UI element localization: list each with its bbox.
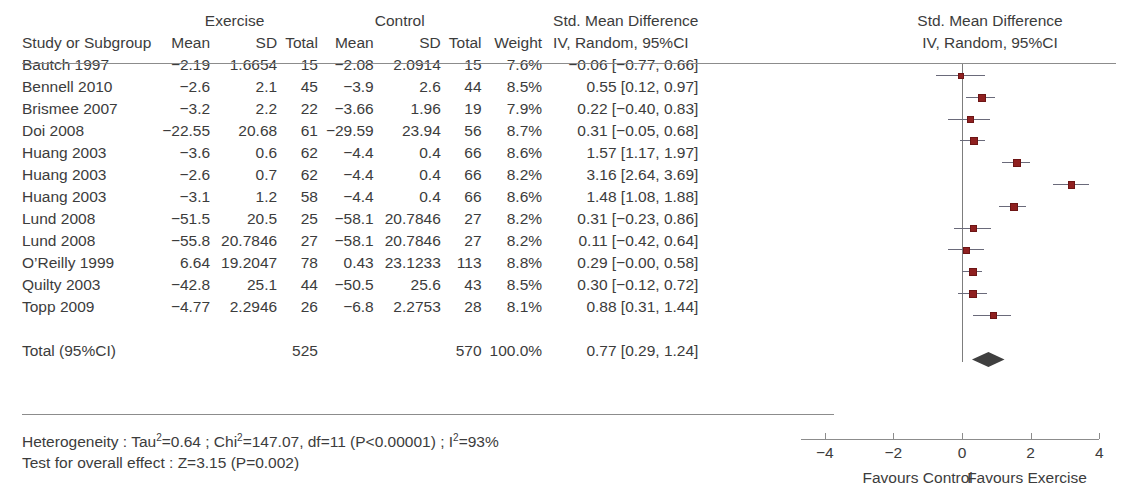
null-effect-line <box>962 64 963 362</box>
table-row: Brismee 2007−3.22.222−3.661.96197.9%0.22… <box>22 98 698 120</box>
cell-effect: 0.31 [−0.23, 0.86] <box>542 208 698 230</box>
overall-effect-line: Test for overall effect : Z=3.15 (P=0.00… <box>22 450 499 475</box>
cell-exercise-sd: 19.2047 <box>210 252 277 274</box>
cell-weight: 8.6% <box>482 142 543 164</box>
cell-exercise-total: 78 <box>277 252 318 274</box>
table-row: Huang 2003−3.60.662−4.40.4668.6%1.57 [1.… <box>22 142 698 164</box>
table-row: Doi 2008−22.5520.6861−29.5923.94568.7%0.… <box>22 120 698 142</box>
cell-exercise-sd: 1.2 <box>210 186 277 208</box>
cell-weight: 8.5% <box>482 274 543 296</box>
cell-control-total: 66 <box>441 186 482 208</box>
cell-effect: 0.30 [−0.12, 0.72] <box>542 274 698 296</box>
cell-weight: 7.9% <box>482 98 543 120</box>
cell-control-sd: 2.6 <box>374 76 441 98</box>
cell-exercise-mean: −42.8 <box>151 274 210 296</box>
cell-exercise-total: 62 <box>277 164 318 186</box>
cell-exercise-total: 45 <box>277 76 318 98</box>
cell-exercise-mean: −3.6 <box>151 142 210 164</box>
table-spacer-row <box>22 318 698 340</box>
axis-tick <box>893 433 894 439</box>
cell-control-total: 27 <box>441 230 482 252</box>
cell-control-mean: −58.1 <box>318 208 374 230</box>
cell-exercise-mean: −3.2 <box>151 98 210 120</box>
spacer-cell <box>277 318 318 340</box>
cell-effect: 0.29 [−0.00, 0.58] <box>542 252 698 274</box>
plot-area <box>848 64 1132 419</box>
cell-control-sd: 2.0914 <box>374 54 441 76</box>
table-row: Bautch 1997−2.191.665415−2.082.0914157.6… <box>22 54 698 76</box>
effect-estimate-marker <box>978 94 986 102</box>
favours-exercise-label: Favours Exercise <box>967 469 1087 487</box>
total-cell-exercise-sd <box>210 340 277 362</box>
cell-weight: 8.2% <box>482 208 543 230</box>
total-cell-control-sd <box>374 340 441 362</box>
cell-control-total: 15 <box>441 54 482 76</box>
spacer-cell <box>318 318 374 340</box>
cell-exercise-total: 62 <box>277 142 318 164</box>
cell-weight: 8.6% <box>482 186 543 208</box>
axis-tick <box>825 433 826 439</box>
table-row: O’Reilly 19996.6419.2047780.4323.1233113… <box>22 252 698 274</box>
column-header-exercise-total: Total <box>277 32 318 54</box>
column-header-control-sd: SD <box>374 32 441 54</box>
cell-exercise-mean: 6.64 <box>151 252 210 274</box>
effect-estimate-marker <box>1010 203 1018 211</box>
cell-exercise-mean: −3.1 <box>151 186 210 208</box>
cell-control-total: 28 <box>441 296 482 318</box>
cell-control-total: 113 <box>441 252 482 274</box>
cell-exercise-sd: 20.7846 <box>210 230 277 252</box>
forest-plot-figure: Exercise Control Std. Mean Difference St… <box>0 0 1132 501</box>
column-header-exercise-mean: Mean <box>151 32 210 54</box>
column-header-row: Study or Subgroup Mean SD Total Mean SD … <box>22 32 698 54</box>
cell-study: O’Reilly 1999 <box>22 252 151 274</box>
cell-effect: 1.48 [1.08, 1.88] <box>542 186 698 208</box>
spacer-cell <box>374 318 441 340</box>
cell-control-sd: 0.4 <box>374 164 441 186</box>
cell-exercise-total: 27 <box>277 230 318 252</box>
cell-study: Bautch 1997 <box>22 54 151 76</box>
cell-effect: −0.06 [−0.77, 0.66] <box>542 54 698 76</box>
column-header-control-total: Total <box>441 32 482 54</box>
axis-tick <box>1031 433 1032 439</box>
cell-exercise-total: 44 <box>277 274 318 296</box>
forest-plot-panel: Std. Mean Difference IV, Random, 95%CI −… <box>848 0 1132 501</box>
summary-diamond <box>848 352 1132 367</box>
cell-effect: 3.16 [2.64, 3.69] <box>542 164 698 186</box>
total-row: Total (95%CI)525570100.0%0.77 [0.29, 1.2… <box>22 340 698 362</box>
axis-tick-label: 2 <box>1011 444 1051 462</box>
cell-effect: 0.55 [0.12, 0.97] <box>542 76 698 98</box>
plot-title: Std. Mean Difference IV, Random, 95%CI <box>848 10 1132 54</box>
heterogeneity-line: Heterogeneity : Tau2=0.64 ; Chi2=147.07,… <box>22 425 499 450</box>
cell-exercise-total: 61 <box>277 120 318 142</box>
axis-line <box>801 439 1099 440</box>
cell-control-mean: −4.4 <box>318 164 374 186</box>
table-row: Bennell 2010−2.62.145−3.92.6448.5%0.55 [… <box>22 76 698 98</box>
axis-tick-label: 4 <box>1079 444 1119 462</box>
cell-weight: 8.2% <box>482 230 543 252</box>
total-cell-study: Total (95%CI) <box>22 340 151 362</box>
cell-exercise-sd: 1.6654 <box>210 54 277 76</box>
axis-tick <box>1099 433 1100 439</box>
effect-estimate-marker <box>969 268 977 276</box>
column-header-effect: IV, Random, 95%CI <box>542 32 698 54</box>
cell-exercise-mean: −2.6 <box>151 76 210 98</box>
cell-exercise-total: 26 <box>277 296 318 318</box>
table-row: Huang 2003−3.11.258−4.40.4668.6%1.48 [1.… <box>22 186 698 208</box>
cell-control-total: 43 <box>441 274 482 296</box>
heterogeneity-mid2: =147.07, df=11 (P<0.00001) ; I <box>243 433 453 450</box>
spacer-cell <box>542 318 698 340</box>
table-row: Topp 2009−4.772.294626−6.82.2753288.1%0.… <box>22 296 698 318</box>
cell-study: Doi 2008 <box>22 120 151 142</box>
plot-title-line2: IV, Random, 95%CI <box>848 32 1132 54</box>
spacer-cell <box>22 318 151 340</box>
cell-control-sd: 25.6 <box>374 274 441 296</box>
summary-diamond-shape <box>848 352 1132 367</box>
cell-control-sd: 20.7846 <box>374 230 441 252</box>
cell-control-mean: −2.08 <box>318 54 374 76</box>
cell-control-total: 56 <box>441 120 482 142</box>
cell-study: Quilty 2003 <box>22 274 151 296</box>
cell-control-mean: −4.4 <box>318 142 374 164</box>
axis-tick-label: 0 <box>942 444 982 462</box>
axis-tick <box>962 433 963 439</box>
effect-estimate-marker <box>970 137 978 145</box>
